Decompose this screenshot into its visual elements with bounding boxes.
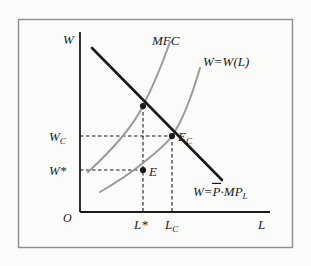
ec-label-sub: C: [186, 136, 193, 146]
x-tick-lstar: L*: [133, 217, 148, 232]
mfc-intersection-point: [140, 103, 146, 109]
competitive-equilibrium-point: [169, 133, 175, 139]
x-axis-label: L: [257, 217, 265, 232]
mrp-label-rhs: MP: [223, 184, 243, 199]
labor-supply-curve-label: W=W(L): [203, 54, 249, 69]
figure-canvas: W L O WC W* L* LC MFC W=W(L): [0, 0, 311, 266]
svg-text:L*: L*: [133, 217, 148, 232]
x-tick-lstar-star: *: [141, 217, 148, 232]
x-tick-lc-sub: C: [172, 224, 179, 234]
y-tick-wc-sub: C: [60, 136, 67, 146]
x-tick-lc-label: L: [164, 217, 172, 232]
x-tick-lstar-label: L: [133, 217, 141, 232]
monopsony-labor-market-diagram: W L O WC W* L* LC MFC W=W(L): [0, 0, 311, 266]
marginal-revenue-product-label: W=P·MPL: [193, 183, 248, 201]
svg-text:W=P·MPL: W=P·MPL: [193, 184, 248, 201]
svg-text:W*: W*: [49, 163, 67, 178]
mfc-curve-label: MFC: [151, 33, 180, 48]
monopsony-equilibrium-point: [140, 167, 146, 173]
mrp-label-sub: L: [242, 191, 248, 201]
mrp-label-lhs: W=: [193, 184, 213, 199]
origin-label: O: [63, 211, 72, 225]
y-tick-wstar: W*: [49, 163, 67, 178]
y-tick-wstar-star: *: [60, 163, 67, 178]
ec-label: E: [177, 129, 186, 144]
mrp-label-p: P: [212, 184, 221, 199]
y-axis-label: W: [63, 32, 75, 47]
monopsony-equilibrium-label: E: [148, 164, 157, 179]
